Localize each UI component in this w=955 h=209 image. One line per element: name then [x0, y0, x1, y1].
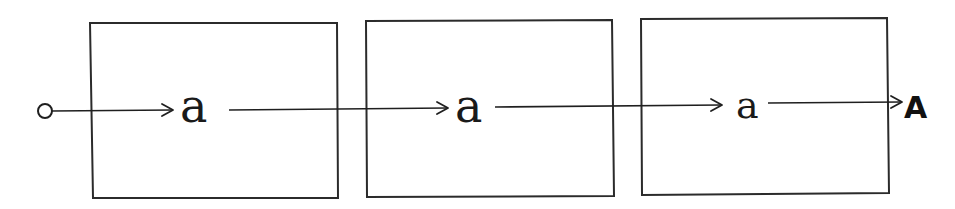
state-chain-diagram: a a a A [0, 0, 955, 209]
output-label: A [904, 90, 928, 125]
box-3-label: a [736, 83, 759, 127]
edge-a2-to-a3 [495, 99, 722, 111]
box-1-label: a [180, 79, 207, 133]
box-3 [641, 18, 889, 195]
box-2-label: a [455, 79, 482, 133]
edge-a3-to-output [768, 96, 902, 108]
start-circle-icon [38, 104, 52, 118]
edge-start-to-a1 [52, 104, 173, 116]
